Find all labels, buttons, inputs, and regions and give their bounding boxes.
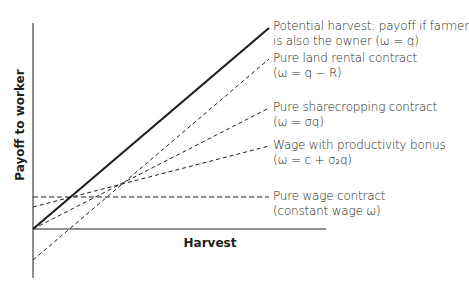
x-axis-label: Harvest: [184, 236, 237, 250]
rental-label-line2: (ω = q − R): [273, 66, 417, 81]
sharecropping-label-line2: (ω = σq): [273, 115, 437, 130]
rental-line: [33, 59, 269, 260]
pure-wage-label: Pure wage contract (constant wage ω): [273, 189, 385, 219]
potential-harvest-label-line1: Potential harvest: payoff if farmer: [273, 19, 469, 34]
bonus-label-line1: Wage with productivity bonus: [273, 138, 446, 153]
pure-wage-label-line1: Pure wage contract: [273, 189, 385, 204]
sharecropping-line: [33, 108, 269, 229]
pure-wage-label-line2: (constant wage ω): [273, 204, 385, 219]
potential-harvest-label-line2: is also the owner (ω = q): [273, 34, 469, 49]
potential-harvest-label: Potential harvest: payoff if farmer is a…: [273, 19, 469, 49]
rental-label: Pure land rental contract (ω = q − R): [273, 51, 417, 81]
sharecropping-label-line1: Pure sharecropping contract: [273, 100, 437, 115]
bonus-label: Wage with productivity bonus (ω = c + σ₂…: [273, 138, 446, 168]
potential-harvest-line: [33, 28, 269, 229]
y-axis-label: Payoff to worker: [13, 69, 27, 180]
bonus-label-line2: (ω = c + σ₂q): [273, 153, 446, 168]
sharecropping-label: Pure sharecropping contract (ω = σq): [273, 100, 437, 130]
rental-label-line1: Pure land rental contract: [273, 51, 417, 66]
